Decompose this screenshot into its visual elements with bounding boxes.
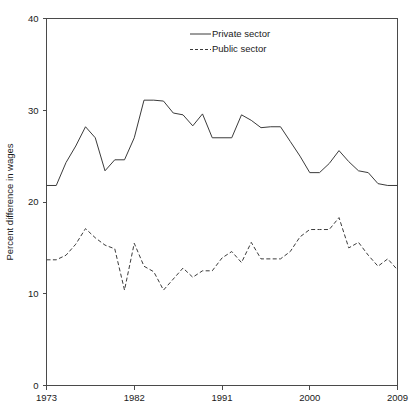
y-tick-label: 30 (28, 105, 39, 116)
x-tick-label: 1982 (124, 392, 145, 403)
y-tick-label: 10 (28, 288, 39, 299)
y-tick-label: 20 (28, 196, 39, 207)
x-axis: 19731982199120002009 (36, 386, 408, 403)
y-tick-label: 40 (28, 13, 39, 24)
chart-legend: Private sectorPublic sector (190, 28, 270, 55)
legend-label-public-sector: Public sector (212, 43, 266, 54)
axis-spines (47, 19, 398, 386)
y-axis-title: Percent difference in wages (4, 143, 15, 260)
y-tick-label: 0 (33, 380, 38, 391)
data-series-group (47, 100, 398, 290)
axis-frame (47, 19, 398, 386)
chart-figure: 010203040 19731982199120002009 Private s… (0, 0, 419, 415)
line-chart: 010203040 19731982199120002009 Private s… (0, 0, 419, 415)
x-tick-label: 1973 (36, 392, 57, 403)
series-line-public-sector (47, 218, 398, 290)
x-tick-label: 2000 (299, 392, 320, 403)
series-line-private-sector (47, 100, 398, 185)
x-tick-label: 2009 (387, 392, 408, 403)
x-tick-label: 1991 (211, 392, 232, 403)
y-axis: 010203040 (28, 13, 47, 391)
legend-label-private-sector: Private sector (212, 28, 270, 39)
y-axis-title-text: Percent difference in wages (4, 143, 15, 260)
